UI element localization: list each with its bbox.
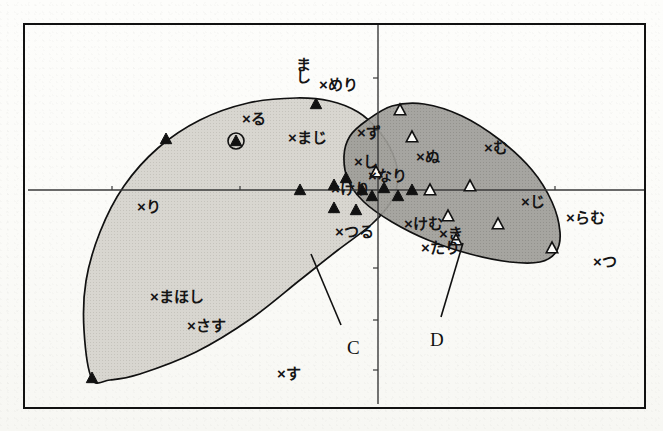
point-label-5: ×ず bbox=[357, 125, 381, 141]
point-label-3: まし bbox=[296, 59, 311, 84]
figure-canvas: ×り×る×まじまし×めり×ず×し×なり×けり×ぬ×む×じ×らむ×つ×つる×けむ×… bbox=[0, 0, 663, 431]
point-label-9: ×ぬ bbox=[416, 149, 440, 165]
point-label-10: ×む bbox=[484, 140, 508, 156]
point-label-8: ×けり bbox=[331, 181, 370, 197]
point-label-17: ×たり bbox=[421, 240, 460, 256]
point-label-4: ×めり bbox=[319, 77, 358, 93]
point-label-13: ×つ bbox=[593, 254, 617, 270]
point-label-15: ×けむ bbox=[404, 216, 443, 232]
region-label-C: C bbox=[347, 338, 360, 357]
point-label-12: ×らむ bbox=[566, 210, 605, 226]
point-label-19: ×さす bbox=[187, 318, 226, 334]
point-label-20: ×す bbox=[277, 366, 301, 382]
point-label-0: ×り bbox=[137, 199, 161, 215]
point-label-18: ×まほし bbox=[150, 289, 205, 305]
point-label-7: ×なり bbox=[368, 168, 407, 184]
point-label-2: ×まじ bbox=[288, 130, 327, 146]
region-label-D: D bbox=[430, 330, 444, 349]
point-label-1: ×る bbox=[242, 111, 266, 127]
point-label-11: ×じ bbox=[521, 194, 545, 210]
leader-line-C bbox=[311, 254, 341, 325]
point-label-14: ×つる bbox=[335, 224, 374, 240]
scatter-plot-svg bbox=[0, 0, 663, 431]
